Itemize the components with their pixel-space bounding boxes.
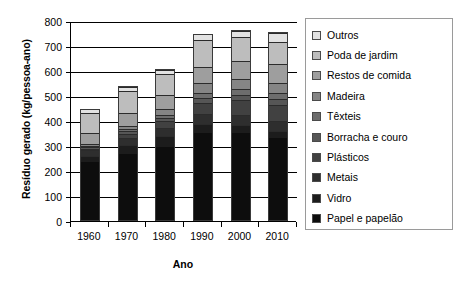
bar-segment <box>269 64 287 83</box>
chart-figure: Resíduo gerado (kg/pessoa-ano) 010020030… <box>0 0 466 282</box>
legend-swatch-icon <box>312 71 321 80</box>
bar-segment <box>194 124 212 134</box>
legend-item-label: Papel e papelão <box>327 213 403 224</box>
legend-item-label: Têxteis <box>327 111 361 122</box>
bar-segment <box>119 91 137 113</box>
plot-inner <box>71 22 296 221</box>
bar-segment <box>232 125 250 134</box>
chart-legend: OutrosPoda de jardimRestos de comidaMade… <box>305 18 453 230</box>
bar-segment <box>156 74 174 95</box>
bar-segment <box>194 114 212 124</box>
bar-segment <box>269 83 287 93</box>
legend-swatch-icon <box>312 92 321 101</box>
legend-item-label: Plásticos <box>327 152 369 163</box>
bar-segment <box>81 133 99 144</box>
gridline-700 <box>71 47 297 48</box>
legend-swatch-icon <box>312 51 321 60</box>
bar-2000[interactable] <box>231 30 251 221</box>
bar-segment <box>232 79 250 89</box>
bar-segment <box>119 154 137 220</box>
bar-segment <box>156 147 174 220</box>
plot-area <box>70 22 296 222</box>
x-tick-mark-0 <box>70 222 71 227</box>
gridline-300 <box>71 147 297 148</box>
legend-item-5[interactable]: Borracha e couro <box>312 127 452 147</box>
legend-item-0[interactable]: Outros <box>312 25 452 45</box>
legend-swatch-icon <box>312 214 321 223</box>
bar-segment <box>269 42 287 64</box>
legend-item-label: Poda de jardim <box>327 50 398 61</box>
bar-segment <box>269 131 287 138</box>
y-tick-label-500: 500 <box>28 92 62 102</box>
bar-segment <box>232 61 250 79</box>
bar-segment <box>269 105 287 121</box>
gridline-600 <box>71 72 297 73</box>
bar-segment <box>194 67 212 83</box>
gridline-400 <box>71 122 297 123</box>
x-tick-mark-6 <box>296 222 297 227</box>
bar-segment <box>232 31 250 38</box>
bar-segment <box>119 138 137 145</box>
legend-item-8[interactable]: Vidro <box>312 188 452 208</box>
legend-swatch-icon <box>312 173 321 182</box>
x-tick-mark-3 <box>183 222 184 227</box>
gridline-800 <box>71 22 297 23</box>
y-tick-label-700: 700 <box>28 42 62 52</box>
legend-item-2[interactable]: Restos de comida <box>312 66 452 86</box>
legend-item-7[interactable]: Metais <box>312 168 452 188</box>
legend-swatch-icon <box>312 194 321 203</box>
bar-segment <box>194 103 212 114</box>
x-tick-mark-5 <box>258 222 259 227</box>
legend-item-label: Borracha e couro <box>327 132 408 143</box>
bar-segment <box>156 128 174 137</box>
bar-segment <box>119 113 137 125</box>
legend-item-label: Vidro <box>327 193 351 204</box>
y-tick-label-200: 200 <box>28 167 62 177</box>
legend-item-label: Metais <box>327 172 358 183</box>
legend-swatch-icon <box>312 112 321 121</box>
bar-segment <box>232 37 250 61</box>
bar-segment <box>156 136 174 147</box>
gridline-500 <box>71 97 297 98</box>
y-tick-label-100: 100 <box>28 192 62 202</box>
gridline-100 <box>71 197 297 198</box>
legend-item-3[interactable]: Madeira <box>312 86 452 106</box>
y-tick-label-300: 300 <box>28 142 62 152</box>
x-tick-label-2010: 2010 <box>254 230 300 242</box>
legend-item-9[interactable]: Papel e papelão <box>312 209 452 229</box>
legend-swatch-icon <box>312 153 321 162</box>
legend-item-4[interactable]: Têxteis <box>312 107 452 127</box>
legend-item-label: Outros <box>327 30 359 41</box>
bar-segment <box>194 40 212 67</box>
x-tick-mark-2 <box>145 222 146 227</box>
bar-1990[interactable] <box>193 34 213 222</box>
y-tick-label-400: 400 <box>28 117 62 127</box>
bar-segment <box>232 115 250 125</box>
bar-segment <box>232 100 250 115</box>
bar-segment <box>269 138 287 220</box>
bar-segment <box>269 121 287 131</box>
x-tick-mark-1 <box>108 222 109 227</box>
bar-1960[interactable] <box>80 109 100 222</box>
bar-segment <box>232 133 250 220</box>
bar-1970[interactable] <box>118 86 138 221</box>
legend-item-6[interactable]: Plásticos <box>312 147 452 167</box>
gridline-200 <box>71 172 297 173</box>
legend-swatch-icon <box>312 31 321 40</box>
legend-swatch-icon <box>312 133 321 142</box>
bar-1980[interactable] <box>155 69 175 222</box>
bar-2010[interactable] <box>268 32 288 221</box>
legend-item-label: Madeira <box>327 91 365 102</box>
y-tick-label-600: 600 <box>28 67 62 77</box>
bar-segment <box>81 162 99 220</box>
x-tick-mark-4 <box>221 222 222 227</box>
bar-segment <box>194 133 212 220</box>
bar-segment <box>81 113 99 133</box>
legend-item-1[interactable]: Poda de jardim <box>312 45 452 65</box>
legend-item-label: Restos de comida <box>327 70 411 81</box>
bar-segment <box>194 83 212 93</box>
bar-segment <box>269 33 287 42</box>
bar-segment <box>119 145 137 154</box>
x-axis-title: Ano <box>70 258 296 270</box>
y-tick-label-0: 0 <box>28 217 62 227</box>
